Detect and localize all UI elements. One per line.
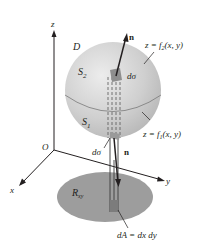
z-axis-arrow-icon [52, 30, 57, 37]
dA-patch [110, 200, 118, 212]
normal-top-label: n [129, 32, 134, 42]
y-axis-label: y [165, 176, 170, 186]
normal-top-arrowhead-icon [123, 33, 129, 42]
dsigma-bottom-leader [104, 138, 110, 148]
x-axis-label: x [9, 185, 14, 195]
x-axis [22, 150, 54, 183]
z-axis-label: z [50, 19, 55, 29]
dsigma-bottom-label: dσ [92, 147, 102, 157]
dA-equation: dA = dx dy [117, 230, 157, 240]
f2-equation: z = f2(x, y) [144, 40, 183, 51]
divergence-diagram: z y x O D S2 S1 n n dσ dσ z = f2(x, y) z… [0, 0, 205, 249]
normal-bottom-label: n [124, 147, 129, 157]
f1-equation: z = f1(x, y) [142, 129, 181, 140]
y-axis-arrow-icon [157, 177, 165, 182]
region-d-label: D [72, 41, 81, 52]
dsigma-top-label: dσ [127, 71, 137, 81]
sphere [65, 42, 161, 138]
origin-label: O [42, 142, 49, 152]
